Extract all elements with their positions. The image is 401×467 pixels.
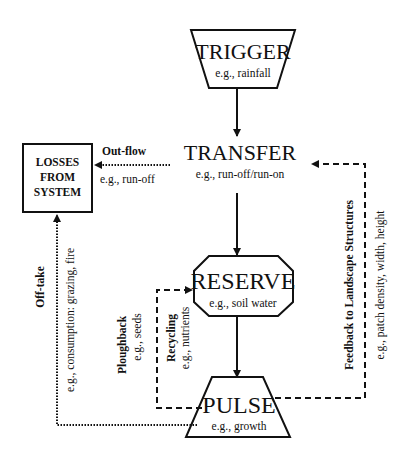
reserve-title: RESERVE — [191, 268, 296, 294]
pulse-title: PULSE — [202, 392, 275, 418]
transfer-example: e.g., run-off/run-on — [196, 168, 285, 181]
outflow-connector: Out-flow e.g., run-off — [95, 145, 170, 186]
feedback-label: Feedback to Landscape Structures — [343, 199, 356, 370]
ploughback-example: e.g., seeds — [131, 313, 144, 361]
recycling-example: e.g., nutrients — [179, 306, 192, 369]
trigger-title: TRIGGER — [195, 39, 291, 64]
reserve-example: e.g., soil water — [209, 297, 277, 310]
losses-line-3: SYSTEM — [34, 186, 81, 198]
recycling-label: Recycling — [165, 314, 178, 362]
losses-line-1: LOSSES — [36, 156, 79, 168]
outflow-label: Out-flow — [102, 145, 147, 157]
losses-line-2: FROM — [40, 171, 75, 183]
losses-node: LOSSES FROM SYSTEM — [23, 144, 92, 212]
trigger-transfer-reserve-pulse-diagram: TRIGGER e.g., rainfall TRANSFER e.g., ru… — [0, 0, 401, 467]
pulse-example: e.g., growth — [212, 420, 267, 433]
feedback-example: e.g., patch density, width, height — [374, 210, 387, 360]
ploughback-label: Ploughback — [116, 315, 129, 374]
recycling-connector: Ploughback e.g., seeds Recycling e.g., n… — [116, 290, 202, 408]
offtake-example: e.g., consumption: grazing, fire — [64, 248, 77, 392]
trigger-example: e.g., rainfall — [215, 67, 271, 80]
reserve-node: RESERVE e.g., soil water — [191, 256, 296, 316]
offtake-label: Off-take — [34, 266, 46, 308]
transfer-node: TRANSFER e.g., run-off/run-on — [184, 140, 297, 181]
transfer-title: TRANSFER — [184, 140, 297, 165]
trigger-node: TRIGGER e.g., rainfall — [191, 30, 295, 88]
outflow-example: e.g., run-off — [100, 173, 155, 186]
